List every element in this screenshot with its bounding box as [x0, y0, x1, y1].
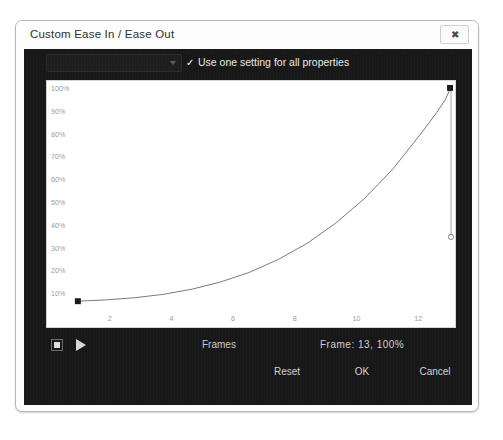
- top-control-row: ✓Use one setting for all properties: [24, 49, 472, 79]
- y-tick-label: 40%: [51, 222, 66, 230]
- use-one-setting-label: Use one setting for all properties: [198, 56, 349, 68]
- chevron-down-icon: [170, 61, 176, 65]
- y-tick-label: 100%: [51, 85, 70, 93]
- x-tick-label: 4: [169, 315, 173, 323]
- tangent-handle-knob[interactable]: [448, 234, 453, 239]
- y-axis-labels: 100% 90% 80% 70% 60% 50% 40% 30% 20% 10%: [51, 85, 70, 298]
- x-tick-label: 10: [353, 315, 361, 323]
- transport-row: Frames Frame: 13, 100%: [24, 335, 472, 357]
- page-title: Custom Ease In / Ease Out: [30, 28, 174, 40]
- frame-readout: Frame: 13, 100%: [320, 339, 404, 350]
- check-icon: ✓: [186, 57, 194, 68]
- x-tick-label: 2: [108, 315, 112, 323]
- title-bar: Custom Ease In / Ease Out ✖: [16, 21, 478, 49]
- start-anchor-point[interactable]: [75, 298, 81, 304]
- x-tick-label: 12: [414, 315, 422, 323]
- close-icon[interactable]: ✖: [440, 25, 469, 44]
- ease-curve-graph[interactable]: 100% 90% 80% 70% 60% 50% 40% 30% 20% 10%…: [46, 80, 456, 328]
- x-axis-labels: 2 4 6 8 10 12: [108, 315, 422, 323]
- ok-button[interactable]: OK: [341, 363, 383, 380]
- end-anchor-point[interactable]: [447, 85, 453, 91]
- y-tick-label: 50%: [51, 199, 66, 207]
- footer-buttons: Reset OK Cancel: [24, 361, 472, 385]
- x-tick-label: 8: [293, 315, 297, 323]
- property-select[interactable]: [46, 54, 182, 72]
- y-tick-label: 10%: [51, 290, 66, 298]
- y-tick-label: 70%: [51, 153, 66, 161]
- reset-button[interactable]: Reset: [261, 363, 313, 380]
- screen: Custom Ease In / Ease Out ✖ ✓Use one set…: [0, 0, 503, 440]
- use-one-setting-checkbox[interactable]: ✓Use one setting for all properties: [186, 56, 349, 68]
- y-tick-label: 20%: [51, 267, 66, 275]
- dialog-body: ✓Use one setting for all properties 100%…: [24, 49, 472, 405]
- custom-ease-dialog: Custom Ease In / Ease Out ✖ ✓Use one set…: [15, 20, 479, 412]
- y-tick-label: 90%: [51, 108, 66, 116]
- cancel-button[interactable]: Cancel: [409, 363, 461, 380]
- y-tick-label: 60%: [51, 176, 66, 184]
- stop-icon[interactable]: [51, 339, 63, 351]
- x-tick-label: 6: [231, 315, 235, 323]
- y-tick-label: 30%: [51, 245, 66, 253]
- y-tick-label: 80%: [51, 131, 66, 139]
- play-icon[interactable]: [76, 339, 86, 351]
- ease-curve-svg: 100% 90% 80% 70% 60% 50% 40% 30% 20% 10%…: [47, 81, 455, 327]
- frames-axis-label: Frames: [202, 339, 236, 350]
- ease-curve-line: [77, 87, 451, 301]
